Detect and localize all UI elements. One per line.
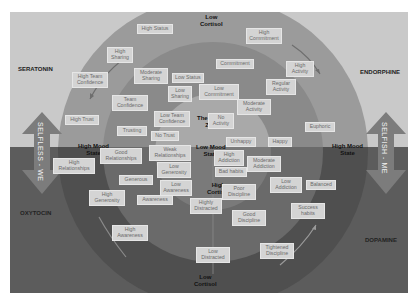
concept-box-no-trust: No Trust xyxy=(151,131,179,141)
concept-box-high-status: High Status xyxy=(137,24,173,34)
concept-box-text: Addiction xyxy=(273,185,299,191)
concept-box-text: Discipline xyxy=(235,218,263,224)
concept-box-low-awareness: LowAwareness xyxy=(160,180,192,196)
concept-box-text: Relationships xyxy=(103,156,139,162)
concept-box-low-generosity: LowGenerosity xyxy=(157,162,191,178)
concept-box-unhappy: Unhappy xyxy=(226,137,256,147)
concept-box-text: Generosity xyxy=(160,170,188,176)
endorphine-label: ENDORPHINE xyxy=(360,69,400,75)
concept-box-moderate-addiction: ModerateAddiction xyxy=(247,156,281,172)
concept-box-high-relationships: HighRelationships xyxy=(53,158,95,174)
concept-box-high-addiction: HighAddiction xyxy=(214,150,244,166)
oxytocin-label: OXYTOCIN xyxy=(20,210,51,216)
concept-box-text: Distracted xyxy=(193,206,219,212)
concept-box-text: Confidence xyxy=(75,80,105,86)
concept-box-commitment: Commitment xyxy=(216,59,254,69)
concept-box-text: Awareness xyxy=(140,197,170,203)
concept-box-text: Commitment xyxy=(249,36,279,42)
concept-box-high-sharing: HighSharing xyxy=(107,47,133,63)
concept-box-good-relationships: GoodRelationships xyxy=(100,148,142,164)
concept-box-text: Sharing xyxy=(171,94,189,100)
concept-box-generous: Generous xyxy=(119,175,153,185)
concept-box-text: Unhappy xyxy=(229,139,253,145)
concept-box-high-team-confidence: High TeamConfidence xyxy=(72,72,108,88)
concept-box-text: Discipline xyxy=(263,251,291,257)
concept-box-poor-discipline: PoorDiscipline xyxy=(222,184,256,200)
concept-box-text: Generous xyxy=(122,177,150,183)
top-low-cortisol-label: LowCortisol xyxy=(200,14,223,28)
dopamine-label: DOPAMINE xyxy=(365,237,397,243)
concept-box-high-awareness: HighAwareness xyxy=(112,225,148,241)
concept-box-no-activity: NoActivity xyxy=(208,113,234,129)
concept-box-text: Sharing xyxy=(110,55,130,61)
concept-box-happy: Happy xyxy=(268,137,292,147)
concept-box-trusting: Trusting xyxy=(117,126,147,136)
concept-box-text: High Status xyxy=(140,26,170,32)
concept-box-text: Activity xyxy=(211,121,231,127)
concept-box-text: Euphoric xyxy=(308,124,332,130)
concept-box-balanced: Balanced xyxy=(306,180,336,190)
concept-box-low-team-confidence: Low TeamConfidence xyxy=(154,111,190,127)
concept-box-euphoric: Euphoric xyxy=(305,122,335,132)
concept-box-text: Confidence xyxy=(115,103,145,109)
concept-box-low-commitment: LowCommitment xyxy=(199,84,239,100)
concept-box-text: Commitment xyxy=(219,61,251,67)
concept-box-text: Awareness xyxy=(115,233,145,239)
concept-box-text: No Trust xyxy=(154,133,176,139)
concept-box-bad-habits: Bad habits xyxy=(215,167,247,177)
concept-box-text: Discipline xyxy=(225,192,253,198)
concept-box-text: Activity xyxy=(269,87,293,93)
concept-box-text: Generosity xyxy=(92,198,122,204)
concept-box-text: Addiction xyxy=(250,164,278,170)
concept-box-text: Confidence xyxy=(157,119,187,125)
concept-box-weak-relationships: WeakRelationships xyxy=(149,145,191,161)
concept-box-text: Sharing xyxy=(137,76,165,82)
concept-box-text: Activity xyxy=(240,107,268,113)
concept-box-good-discipline: GoodDiscipline xyxy=(232,210,266,226)
concept-box-text: Bad habits xyxy=(218,169,244,175)
concept-box-low-sharing: LowSharing xyxy=(168,86,192,102)
concept-box-text: Distracted xyxy=(199,255,227,261)
concept-box-text: Addiction xyxy=(217,158,241,164)
concept-box-text: Balanced xyxy=(309,182,333,188)
concept-box-high-trust: High Trust xyxy=(65,115,99,125)
concept-box-text: Activity xyxy=(289,69,311,75)
concept-box-text: High Trust xyxy=(68,117,96,123)
concept-box-text: habits xyxy=(294,211,322,217)
concept-box-high-activity: HighActivity xyxy=(286,61,314,77)
concept-box-regular-activity: RegularActivity xyxy=(266,79,296,95)
concept-box-text: Awareness xyxy=(163,188,189,194)
concept-box-awareness: Awareness xyxy=(137,195,173,205)
concept-box-moderate-sharing: ModerateSharing xyxy=(134,68,168,84)
concept-box-text: Trusting xyxy=(120,128,144,134)
concept-box-high-commitment: HighCommitment xyxy=(246,28,282,44)
concept-box-success-habits: Successhabits xyxy=(291,203,325,219)
selfish-me-label: SELFISH - ME xyxy=(381,122,388,192)
serotonin-label: SERATONIN xyxy=(18,66,53,72)
concept-box-high-generosity: HighGenerosity xyxy=(89,190,125,206)
diagram-canvas: SERATONIN ENDORPHINE OXYTOCIN DOPAMINE S… xyxy=(10,12,408,293)
concept-box-low-status: Low Status xyxy=(172,73,204,83)
selfless-we-label: SELFLESS - WE xyxy=(37,122,44,192)
concept-box-text: Happy xyxy=(271,139,289,145)
concept-box-moderate-activity: ModerateActivity xyxy=(237,99,271,115)
concept-box-tightened-discipline: TightenedDiscipline xyxy=(260,243,294,259)
concept-box-text: Relationships xyxy=(56,166,92,172)
concept-box-team-confidence: TeamConfidence xyxy=(112,95,148,111)
concept-box-text: Relationships xyxy=(152,153,188,159)
concept-box-low-distracted: LowDistracted xyxy=(196,247,230,263)
concept-box-text: Low Status xyxy=(175,75,201,81)
concept-box-text: Commitment xyxy=(202,92,236,98)
concept-box-low-addiction: LowAddiction xyxy=(270,177,302,193)
high-mood-state-right-label: High MoodState xyxy=(332,143,363,157)
concept-box-highly-distracted: HighlyDistracted xyxy=(190,198,222,214)
bottom-low-cortisol-label: LowCortisol xyxy=(194,274,217,288)
